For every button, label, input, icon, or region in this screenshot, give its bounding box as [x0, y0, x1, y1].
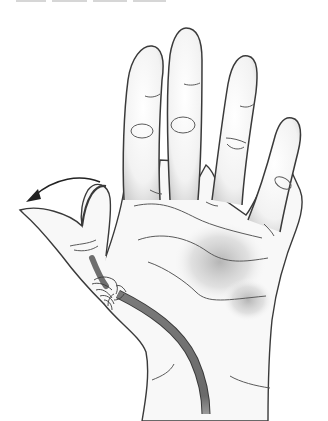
thumb — [20, 184, 111, 304]
ring-finger — [212, 56, 257, 205]
index-finger — [123, 46, 163, 200]
middle-finger — [168, 28, 202, 200]
hand-illustration — [0, 0, 328, 421]
